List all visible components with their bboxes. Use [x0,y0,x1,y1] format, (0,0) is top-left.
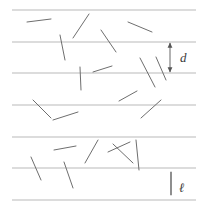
figure-canvas: dℓ [0,0,206,208]
spacing-dimension-label: d [180,50,187,65]
figure-background [0,0,206,208]
needle-length-reference-label: ℓ [179,180,185,195]
buffon-needle-figure: dℓ [0,0,206,208]
